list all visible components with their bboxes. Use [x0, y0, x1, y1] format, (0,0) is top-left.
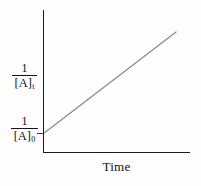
subscript-t: t	[32, 82, 35, 91]
x-axis-line	[43, 152, 190, 153]
concentration-bracket-a: [A]	[15, 76, 32, 90]
fraction-numerator: 1	[11, 115, 39, 129]
plot-line-svg	[0, 0, 201, 186]
y-axis-label-lower: 1 [A]0	[8, 115, 41, 143]
fraction-one-over-a-t: 1 [A]t	[12, 62, 38, 90]
subscript-zero: 0	[31, 135, 35, 144]
fraction-denominator: [A]t	[12, 76, 38, 90]
y-axis-line	[43, 10, 44, 153]
fraction-numerator: 1	[12, 62, 38, 76]
y-axis-label-upper: 1 [A]t	[8, 62, 41, 90]
data-line	[45, 32, 177, 133]
fraction-denominator: [A]0	[11, 129, 39, 143]
kinetics-plot-figure: 1 [A]t 1 [A]0 Time	[0, 0, 201, 186]
concentration-bracket-a: [A]	[14, 129, 31, 143]
x-axis-label: Time	[43, 160, 190, 173]
fraction-one-over-a-zero: 1 [A]0	[11, 115, 39, 143]
